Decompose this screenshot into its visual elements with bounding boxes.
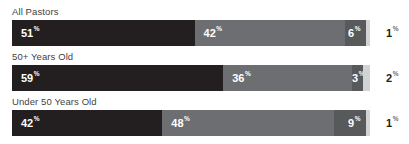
chart-row: All Pastors 51% 42% 6% 1% [12, 6, 397, 46]
bar-wrap: 51% 42% 6% 1% [12, 20, 397, 46]
bar-wrap: 42% 48% 9% 1% [12, 110, 397, 136]
chart-row: Under 50 Years Old 42% 48% 9% 1% [12, 96, 397, 136]
bar-segment-2[interactable]: 36% [223, 65, 352, 91]
bar-segment-1[interactable]: 51% [12, 20, 195, 46]
bar-segment-3[interactable]: 9% [334, 110, 366, 136]
bar-segment-4[interactable] [366, 20, 370, 46]
segment-value: 9% [348, 117, 366, 129]
segment-value: 1% [386, 117, 398, 129]
bar-segment-4-label: 1% [378, 110, 398, 136]
segment-value: 2% [386, 72, 398, 84]
row-label-all-pastors: All Pastors [12, 6, 397, 18]
bar-segment-4[interactable] [366, 110, 370, 136]
bar-segment-1[interactable]: 42% [12, 110, 162, 136]
stacked-bar: 42% 48% 9% [12, 110, 370, 136]
segment-value: 42% [195, 27, 223, 39]
stacked-bar: 59% 36% 3% [12, 65, 370, 91]
stacked-bar: 51% 42% 6% [12, 20, 370, 46]
bar-segment-3[interactable]: 6% [345, 20, 366, 46]
bar-segment-1[interactable]: 59% [12, 65, 223, 91]
bar-segment-3[interactable]: 3% [352, 65, 363, 91]
segment-value: 59% [12, 72, 40, 84]
segment-value: 51% [12, 27, 40, 39]
bar-segment-2[interactable]: 42% [195, 20, 345, 46]
segment-value: 1% [386, 27, 398, 39]
bar-wrap: 59% 36% 3% 2% [12, 65, 397, 91]
bar-segment-4-label: 2% [378, 65, 398, 91]
segment-value: 48% [162, 117, 190, 129]
stacked-bar-chart: All Pastors 51% 42% 6% 1% 50+ Years Old [0, 0, 409, 144]
bar-segment-4-label: 1% [378, 20, 398, 46]
bar-segment-2[interactable]: 48% [162, 110, 334, 136]
chart-row: 50+ Years Old 59% 36% 3% 2% [12, 51, 397, 91]
segment-value: 6% [348, 27, 366, 39]
row-label-under-50-years-old: Under 50 Years Old [12, 96, 397, 108]
bar-segment-4[interactable] [363, 65, 370, 91]
segment-value: 36% [223, 72, 251, 84]
row-label-50-plus-years-old: 50+ Years Old [12, 51, 397, 63]
segment-value: 42% [12, 117, 40, 129]
